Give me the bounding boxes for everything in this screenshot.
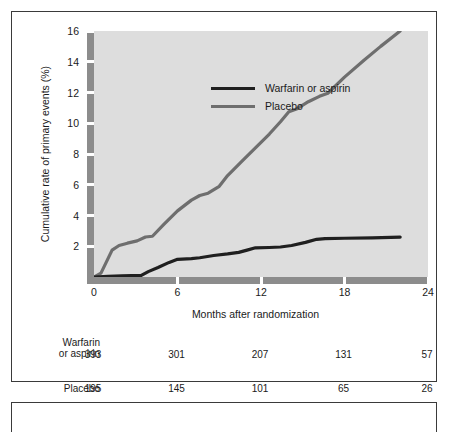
x-tick-label: 6 xyxy=(165,287,191,298)
y-tick-label: 2 xyxy=(49,241,79,251)
risk-table-value: 65 xyxy=(329,383,359,394)
y-tick-notch xyxy=(87,91,94,94)
y-tick-notch xyxy=(87,122,94,125)
series-line-warfarin-or-aspirin xyxy=(94,237,400,277)
x-tick-notch xyxy=(343,277,346,284)
legend-label: Warfarin or aspirin xyxy=(265,82,350,94)
risk-table-value: 145 xyxy=(162,383,192,394)
y-tick-label: 4 xyxy=(49,211,79,221)
risk-table-row: Placebo1951451016526 xyxy=(32,371,442,405)
y-tick-label: 10 xyxy=(49,118,79,128)
y-axis-title: Cumulative rate of primary events (%) xyxy=(38,31,52,277)
y-tick-label: 16 xyxy=(49,26,79,36)
x-tick-label: 12 xyxy=(248,287,274,298)
x-axis-bar xyxy=(87,277,428,284)
chart-legend: Warfarin or aspirinPlacebo xyxy=(211,79,391,115)
risk-table-value: 207 xyxy=(245,349,275,360)
risk-table-row: Warfarinor aspirin39330120713157 xyxy=(32,337,442,371)
x-tick-label: 24 xyxy=(415,287,441,298)
y-tick-notch xyxy=(87,153,94,156)
risk-table-value: 26 xyxy=(412,383,442,394)
y-tick-label: 12 xyxy=(49,88,79,98)
figure-frame: 246810121416 06121824 Warfarin or aspiri… xyxy=(11,11,437,382)
plot-container: 246810121416 06121824 Warfarin or aspiri… xyxy=(83,31,428,284)
x-tick-notch xyxy=(176,277,179,284)
series-line-placebo xyxy=(94,31,400,277)
y-tick-label: 6 xyxy=(49,180,79,190)
y-tick-notch xyxy=(87,183,94,186)
x-axis-title: Months after randomization xyxy=(83,308,428,320)
numbers-at-risk-table: Warfarinor aspirin39330120713157Placebo1… xyxy=(32,337,442,405)
risk-table-value: 101 xyxy=(245,383,275,394)
legend-line-swatch xyxy=(211,105,255,108)
legend-line-swatch xyxy=(211,87,255,90)
y-tick-notch xyxy=(87,245,94,248)
x-tick-notch xyxy=(260,277,263,284)
risk-table-value: 393 xyxy=(78,349,108,360)
legend-item: Warfarin or aspirin xyxy=(211,79,391,97)
y-axis-bar xyxy=(87,31,94,281)
y-tick-notch xyxy=(87,60,94,63)
risk-table-value: 57 xyxy=(412,349,442,360)
y-tick-label: 8 xyxy=(49,149,79,159)
y-tick-notch xyxy=(87,30,94,33)
y-tick-notch xyxy=(87,214,94,217)
x-tick-notch xyxy=(427,277,430,284)
risk-row-label-line1: Warfarin xyxy=(32,337,100,348)
risk-table-value: 301 xyxy=(162,349,192,360)
figure-bottom-frame xyxy=(11,402,437,432)
x-tick-label: 0 xyxy=(81,287,107,298)
risk-table-value: 195 xyxy=(78,383,108,394)
y-tick-label: 14 xyxy=(49,57,79,67)
chart-curves xyxy=(94,31,428,277)
x-tick-label: 18 xyxy=(332,287,358,298)
legend-item: Placebo xyxy=(211,97,391,115)
legend-label: Placebo xyxy=(265,100,303,112)
risk-table-value: 131 xyxy=(329,349,359,360)
